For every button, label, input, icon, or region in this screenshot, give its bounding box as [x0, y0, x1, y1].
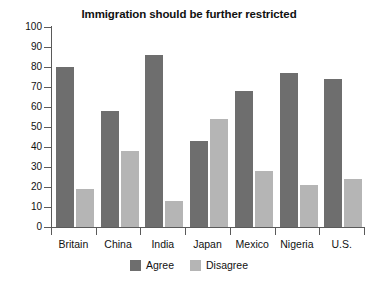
bar-group: [320, 27, 365, 227]
legend-item-agree: Agree: [130, 259, 174, 271]
x-axis-tick: [364, 228, 365, 235]
legend-swatch-disagree: [190, 260, 201, 271]
bar-china-disagree: [121, 151, 139, 227]
y-axis-tick: [44, 207, 51, 208]
bar-nigeria-agree: [280, 73, 298, 227]
bar-mexico-agree: [235, 91, 253, 227]
bar-group: [231, 27, 276, 227]
x-axis-tick: [230, 228, 231, 235]
x-axis-tick: [51, 228, 52, 235]
bar-group: [141, 27, 186, 227]
bar-us-disagree: [344, 179, 362, 227]
bar-group: [97, 27, 142, 227]
y-axis-tick-label: 40: [2, 142, 42, 152]
y-axis-tick: [44, 227, 51, 228]
x-axis-tick: [96, 228, 97, 235]
y-axis-tick-label: 60: [2, 102, 42, 112]
bar-group: [52, 27, 97, 227]
bar-britain-agree: [56, 67, 74, 227]
bar-india-agree: [145, 55, 163, 227]
bar-china-agree: [101, 111, 119, 227]
y-axis-tick: [44, 47, 51, 48]
y-axis-tick-label: 70: [2, 82, 42, 92]
y-axis-tick: [44, 27, 51, 28]
y-axis-tick-label: 0: [2, 222, 42, 232]
bar-mexico-disagree: [255, 171, 273, 227]
chart-legend: AgreeDisagree: [0, 259, 378, 271]
bar-group: [186, 27, 231, 227]
x-axis-label-us: U.S.: [307, 238, 377, 250]
y-axis-tick: [44, 127, 51, 128]
y-axis-tick: [44, 107, 51, 108]
bar-nigeria-disagree: [300, 185, 318, 227]
x-axis-tick: [319, 228, 320, 235]
legend-label: Disagree: [206, 259, 248, 271]
x-axis-tick: [275, 228, 276, 235]
y-axis-tick: [44, 67, 51, 68]
y-axis-tick-label: 50: [2, 122, 42, 132]
y-axis-tick: [44, 187, 51, 188]
y-axis-tick-label: 80: [2, 62, 42, 72]
legend-swatch-agree: [130, 260, 141, 271]
y-axis-tick: [44, 147, 51, 148]
bar-group: [276, 27, 321, 227]
plot-area: [51, 27, 364, 227]
x-axis-tick: [185, 228, 186, 235]
y-axis-tick-label: 30: [2, 162, 42, 172]
y-axis-tick-label: 100: [2, 22, 42, 32]
bar-britain-disagree: [76, 189, 94, 227]
bar-japan-agree: [190, 141, 208, 227]
y-axis-tick-label: 10: [2, 202, 42, 212]
legend-label: Agree: [146, 259, 174, 271]
bar-chart: Immigration should be further restricted…: [0, 0, 378, 287]
bar-japan-disagree: [210, 119, 228, 227]
x-axis-line: [51, 227, 365, 228]
y-axis-tick: [44, 87, 51, 88]
legend-item-disagree: Disagree: [190, 259, 248, 271]
y-axis-tick-label: 20: [2, 182, 42, 192]
chart-title: Immigration should be further restricted: [0, 8, 378, 20]
y-axis-tick-label: 90: [2, 42, 42, 52]
bar-india-disagree: [165, 201, 183, 227]
y-axis-tick: [44, 167, 51, 168]
bar-us-agree: [324, 79, 342, 227]
x-axis-tick: [140, 228, 141, 235]
